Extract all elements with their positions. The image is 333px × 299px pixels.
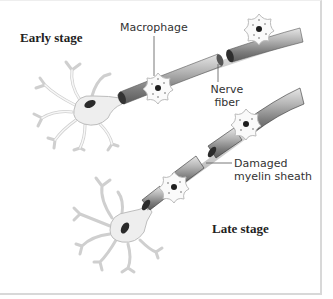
nerve-fiber-label-line2: fiber [210, 96, 244, 109]
late-stage-title: Late stage [212, 221, 269, 237]
damaged-myelin-sheath-label: Damaged myelin sheath [234, 157, 312, 183]
early-neuron [34, 62, 122, 150]
late-neuron [74, 178, 162, 272]
macrophage-label: Macrophage [120, 21, 188, 34]
damaged-label-line2: myelin sheath [234, 170, 312, 183]
early-stage-title: Early stage [20, 30, 82, 46]
nerve-fiber-label: Nerve fiber [210, 83, 244, 109]
nerve-fiber-label-line1: Nerve [210, 83, 244, 96]
damaged-label-line1: Damaged [234, 157, 312, 170]
